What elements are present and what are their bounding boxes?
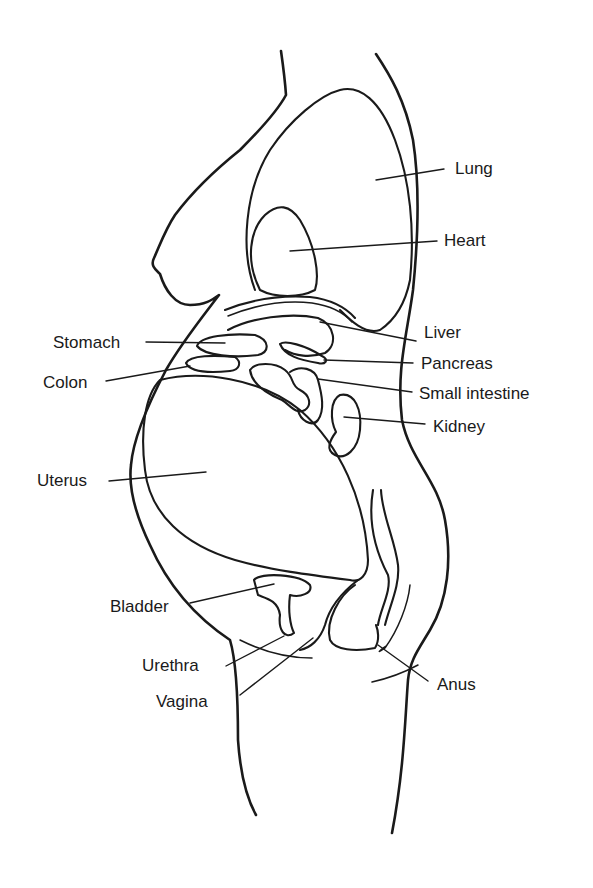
leader-pancreas [324,360,413,363]
leader-stomach [146,342,225,343]
label-vagina: Vagina [156,693,208,710]
leader-liver [320,322,416,341]
label-anus: Anus [437,676,476,693]
label-urethra: Urethra [142,657,199,674]
heart-outline [251,207,317,296]
uterus-outline [143,376,368,581]
label-uterus: Uterus [37,472,87,489]
colon-outline [186,356,239,372]
leader-anus [378,645,428,681]
spine-curve-1 [371,490,388,625]
leader-urethra [226,636,284,666]
leader-vagina [240,638,313,695]
label-heart: Heart [444,232,486,249]
anatomy-diagram: Lung Heart Liver Stomach Pancreas Colon … [0,0,593,888]
leader-colon [106,366,190,381]
rectum-outline [329,585,378,650]
pancreas-outline [280,343,326,364]
label-liver: Liver [424,324,461,341]
leader-bladder [190,584,274,603]
diaphragm-inner [228,302,352,322]
label-stomach: Stomach [53,334,120,351]
label-lung: Lung [455,160,493,177]
leader-kidney [344,417,425,424]
label-bladder: Bladder [110,598,169,615]
label-colon: Colon [43,374,87,391]
body-outline-drawing [0,0,593,888]
leader-lung [376,169,444,180]
leader-uterus [109,472,206,481]
back-outline [376,54,448,833]
kidney-outline [329,395,360,457]
stomach-outline [197,334,267,356]
bladder-outline [254,575,310,635]
leader-small-intestine [318,379,412,392]
label-kidney: Kidney [433,418,485,435]
liver-outline [228,316,333,356]
label-pancreas: Pancreas [421,355,493,372]
label-small-intestine: Small intestine [419,385,530,402]
